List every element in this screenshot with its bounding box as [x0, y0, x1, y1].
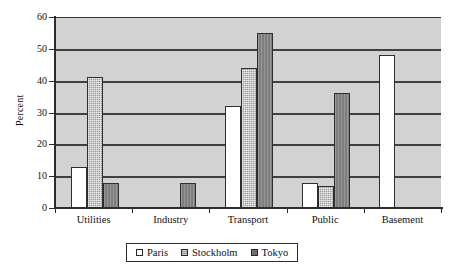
- bar: [180, 183, 196, 208]
- bar: [318, 186, 334, 208]
- bar: [257, 33, 273, 208]
- y-tick: 0: [17, 203, 47, 213]
- legend-label: Stockholm: [192, 247, 238, 258]
- y-tick-label: 40: [21, 76, 47, 86]
- gridline: [56, 49, 441, 51]
- x-tick-mark: [287, 208, 288, 213]
- legend-label: Paris: [147, 247, 168, 258]
- y-axis-line: [54, 16, 56, 209]
- y-tick-label: 0: [21, 203, 47, 213]
- x-tick-label: Utilities: [55, 214, 132, 225]
- bar: [225, 106, 241, 208]
- y-tick-label: 60: [21, 12, 47, 22]
- x-tick-label: Industry: [132, 214, 209, 225]
- bar: [103, 183, 119, 208]
- y-tick: 20: [17, 139, 47, 149]
- legend-item: Stockholm: [181, 247, 238, 258]
- bar: [302, 183, 318, 208]
- gridline: [56, 17, 441, 19]
- plot-area: [55, 17, 441, 208]
- x-axis-line: [55, 207, 443, 209]
- legend-swatch-icon: [136, 249, 143, 256]
- y-tick: 30: [17, 108, 47, 118]
- legend-item: Paris: [136, 247, 168, 258]
- legend-label: Tokyo: [262, 247, 289, 258]
- bar-chart-figure: Percent 0102030405060 UtilitiesIndustryT…: [0, 0, 452, 272]
- x-tick-mark: [132, 208, 133, 213]
- x-tick-label: Transport: [209, 214, 286, 225]
- x-tick-mark: [364, 208, 365, 213]
- y-tick-label: 30: [21, 108, 47, 118]
- plot-inner: [56, 18, 441, 208]
- bar: [87, 77, 103, 208]
- legend-swatch-icon: [251, 249, 258, 256]
- bar: [71, 167, 87, 208]
- legend-swatch-icon: [181, 249, 188, 256]
- y-tick-label: 10: [21, 171, 47, 181]
- x-tick-mark: [55, 208, 56, 213]
- y-tick: 40: [17, 76, 47, 86]
- y-tick: 10: [17, 171, 47, 181]
- y-tick-label: 50: [21, 44, 47, 54]
- y-tick-label: 20: [21, 139, 47, 149]
- x-tick-mark: [441, 208, 442, 213]
- x-tick-label: Basement: [364, 214, 441, 225]
- x-tick-mark: [209, 208, 210, 213]
- y-tick: 60: [17, 12, 47, 22]
- bar: [334, 93, 350, 208]
- bar: [379, 55, 395, 208]
- y-tick: 50: [17, 44, 47, 54]
- x-tick-label: Public: [287, 214, 364, 225]
- bar: [241, 68, 257, 208]
- legend: ParisStockholmTokyo: [126, 243, 298, 262]
- legend-item: Tokyo: [251, 247, 289, 258]
